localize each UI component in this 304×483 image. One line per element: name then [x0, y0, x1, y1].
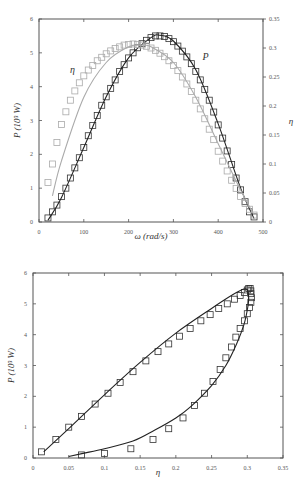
- y-tick-label: 2: [24, 393, 27, 399]
- model-curve: [52, 45, 254, 215]
- plot-frame: [39, 19, 263, 222]
- y-axis-label: P (10³ W): [6, 348, 16, 384]
- x-axis-label: ω (rad/s): [134, 231, 167, 241]
- data-point-square: [207, 312, 213, 318]
- y-tick-label: 0: [24, 455, 27, 461]
- series-annotation: η: [70, 64, 75, 75]
- data-point-square: [224, 301, 230, 307]
- y-axis-label: P (10³ W): [12, 103, 22, 139]
- data-point-square: [198, 318, 204, 324]
- series-0: [45, 33, 257, 221]
- data-point-square: [223, 355, 229, 361]
- data-point-square: [166, 426, 172, 432]
- x-tick-label: 400: [214, 229, 223, 235]
- data-point-square: [81, 73, 87, 79]
- x-tick-label: 0.2: [172, 465, 180, 471]
- y-right-tick-label: 0.15: [269, 132, 280, 138]
- x-tick-label: 0.3: [244, 465, 252, 471]
- data-point-square: [53, 437, 59, 443]
- data-point-square: [128, 446, 134, 452]
- data-point-square: [85, 67, 91, 73]
- y-tick-label: 6: [24, 270, 27, 276]
- data-point-square: [150, 437, 156, 443]
- y-right-tick-label: 0.1: [269, 161, 277, 167]
- y-right-tick-label: 0.3: [269, 45, 277, 51]
- data-point-square: [49, 161, 55, 167]
- data-point-square: [229, 177, 235, 183]
- data-point-square: [63, 109, 69, 115]
- data-point-square: [58, 122, 64, 128]
- x-tick-label: 0: [32, 465, 35, 471]
- y-tick-label: 3: [24, 363, 27, 369]
- x-tick-label: 300: [169, 229, 178, 235]
- y-right-tick-label: 0.05: [269, 190, 280, 196]
- x-tick-label: 0.05: [63, 465, 74, 471]
- x-tick-label: 0.35: [278, 465, 289, 471]
- series-1: [48, 35, 254, 221]
- x-tick-label: 100: [79, 229, 88, 235]
- series-2: [45, 41, 257, 218]
- series-annotation: P: [202, 51, 209, 62]
- x-tick-label: 200: [124, 229, 133, 235]
- data-point-square: [72, 88, 78, 94]
- data-point-square: [216, 305, 222, 311]
- data-point-square: [67, 97, 73, 103]
- data-point-square: [94, 58, 100, 64]
- y-tick-label: 6: [30, 16, 33, 22]
- data-point-square: [224, 168, 230, 174]
- data-point-square: [176, 333, 182, 339]
- y-right-tick-label: 0: [269, 219, 272, 225]
- y-tick-label: 0: [30, 219, 33, 225]
- data-point-square: [39, 449, 45, 455]
- power-vs-efficiency-chart: 00.050.10.150.20.250.30.350123456ηP (10³…: [6, 270, 288, 477]
- data-point-square: [76, 80, 82, 86]
- data-point-square: [90, 62, 96, 68]
- x-tick-label: 0: [38, 229, 41, 235]
- y-axis-ticks: 0123456: [24, 270, 283, 461]
- y-tick-label: 2: [30, 151, 33, 157]
- y-right-tick-label: 0.25: [269, 74, 280, 80]
- y-right-tick-label: 0.35: [269, 16, 280, 22]
- figure: 0100200300400500012345600.050.10.150.20.…: [0, 0, 304, 483]
- data-point-square: [130, 369, 136, 375]
- power-efficiency-vs-speed-chart: 0100200300400500012345600.050.10.150.20.…: [12, 16, 294, 241]
- data-point-square: [166, 341, 172, 347]
- x-tick-label: 0.1: [101, 465, 109, 471]
- data-point-square: [54, 140, 60, 146]
- y-tick-label: 5: [30, 50, 33, 56]
- y-axis-ticks: 0123456: [30, 16, 42, 225]
- y-tick-label: 3: [30, 118, 33, 124]
- x-axis-label: η: [156, 467, 161, 477]
- y-right-axis-ticks: 00.050.10.150.20.250.30.35: [263, 16, 280, 225]
- y-right-axis-label: η: [289, 116, 294, 126]
- data-point-square: [220, 158, 226, 164]
- data-point-square: [180, 415, 186, 421]
- x-tick-label: 0.15: [135, 465, 146, 471]
- y-tick-label: 1: [30, 185, 33, 191]
- y-tick-label: 4: [30, 84, 33, 90]
- y-right-tick-label: 0.2: [269, 103, 277, 109]
- x-tick-label: 0.25: [206, 465, 217, 471]
- y-tick-label: 1: [24, 424, 27, 430]
- data-point-square: [117, 44, 123, 50]
- data-point-square: [231, 296, 237, 302]
- data-point-square: [187, 326, 193, 332]
- data-point-square: [99, 54, 105, 60]
- data-point-square: [112, 46, 118, 52]
- x-axis-ticks: 00.050.10.150.20.250.30.35: [32, 273, 289, 471]
- model-curve: [48, 35, 254, 221]
- data-point-square: [45, 180, 51, 186]
- y-tick-label: 4: [24, 332, 27, 338]
- y-tick-label: 5: [24, 301, 27, 307]
- series-3: [52, 45, 254, 215]
- data-point-square: [233, 334, 239, 340]
- x-tick-label: 500: [259, 229, 268, 235]
